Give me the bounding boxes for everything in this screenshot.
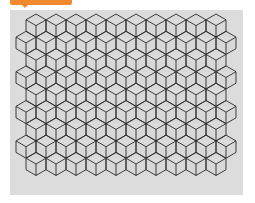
- accent-tab-notch: [22, 5, 28, 8]
- cube-pattern-panel: [10, 10, 243, 195]
- accent-tab-bar: [10, 0, 72, 5]
- cube-tessellation-image: [10, 10, 243, 195]
